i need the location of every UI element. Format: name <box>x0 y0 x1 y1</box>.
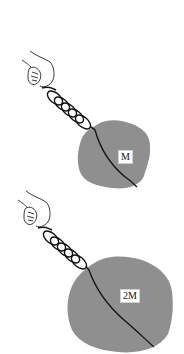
spring-icon <box>38 227 89 271</box>
diagram-svg-bottom <box>0 176 184 354</box>
mass-blob-icon <box>68 257 173 353</box>
figure-mass-2m: 2M <box>0 176 184 354</box>
mass-label-2m: 2M <box>120 289 140 303</box>
diagram-svg-top <box>0 0 184 190</box>
hand-icon <box>18 191 50 227</box>
spring-icon <box>42 87 95 131</box>
figure-mass-m: M <box>0 0 184 190</box>
hand-icon <box>22 51 54 87</box>
mass-label-m: M <box>118 150 133 164</box>
